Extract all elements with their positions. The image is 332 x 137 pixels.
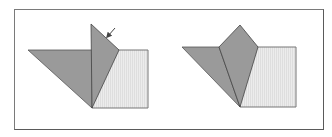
step-2-figure bbox=[182, 25, 296, 107]
fold-arrow-icon bbox=[108, 28, 115, 36]
step-1-figure bbox=[28, 24, 148, 108]
left-triangle-flap bbox=[28, 50, 92, 108]
folding-diagram bbox=[0, 0, 332, 137]
